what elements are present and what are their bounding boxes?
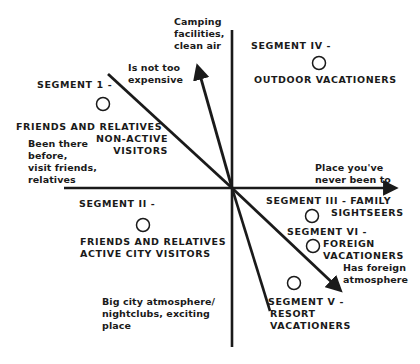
segment-4-name: OUTDOOR VACATIONERS — [254, 74, 397, 86]
segment-6-point[interactable] — [307, 240, 320, 253]
segment-1-name: FRIENDS AND RELATIVES — [16, 121, 162, 133]
segment-2-point[interactable] — [137, 219, 150, 232]
segment-1-point[interactable] — [97, 98, 110, 111]
label-been-there: Been there before, visit friends, relati… — [28, 138, 97, 186]
segment-6-title: SEGMENT VI - — [287, 226, 367, 238]
label-camping-clean-air: Camping facilities, clean air — [174, 16, 225, 52]
segment-3-name: SIGHTSEERS — [331, 207, 404, 219]
label-big-city: Big city atmosphere/ nightclubs, excitin… — [102, 296, 215, 332]
segment-2-title: SEGMENT II - — [79, 198, 155, 210]
segment-4-title: SEGMENT IV - — [251, 40, 331, 52]
segment-6-name: FOREIGN VACATIONERS — [323, 238, 404, 262]
segment-2-name: FRIENDS AND RELATIVES ACTIVE CITY VISITO… — [80, 236, 226, 260]
label-foreign-atmosphere: Has foreign atmosphere — [343, 262, 408, 286]
segment-3-point[interactable] — [306, 210, 319, 223]
segment-1-name-cont: NON-ACTIVE VISITORS — [96, 133, 168, 157]
segment-5-title: SEGMENT V - — [268, 296, 344, 308]
segment-5-point[interactable] — [288, 277, 301, 290]
label-place-never-been: Place you've never been to — [315, 162, 391, 186]
segment-5-name: RESORT VACATIONERS — [270, 308, 351, 332]
segment-1-title: SEGMENT 1 - — [37, 79, 112, 91]
label-not-too-expensive: Is not too expensive — [128, 62, 183, 86]
vector-camping-clean-air — [198, 68, 232, 188]
segment-3-title: SEGMENT III - FAMILY — [266, 195, 391, 207]
segment-4-point[interactable] — [313, 57, 326, 70]
